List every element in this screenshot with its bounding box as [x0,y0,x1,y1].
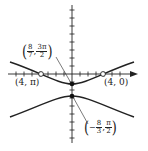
vertex-upper-label: ( 87 , 3π2 ) [22,44,53,59]
x-axis-arrow-icon [130,71,138,77]
intercept-left-point [39,72,44,77]
leader-line-upper [56,57,71,83]
vertex-lower-point [70,94,75,99]
intercept-right-label: (4, 0) [104,78,128,87]
frac-den: 2 [40,52,44,59]
frac-den: 7 [28,52,32,59]
vertex-upper-point [70,82,75,87]
frac-den: 3 [97,128,101,135]
graph-canvas [0,0,148,151]
intercept-left-label: (4, π) [15,78,39,87]
intercept-right-point [101,72,106,77]
frac-den: 2 [106,128,110,135]
sign: − [89,124,96,132]
hyperbola-diagram: ( 87 , 3π2 ) ( − 83 , π2 ) (4, π) (4, 0) [0,0,148,151]
vertex-lower-label: ( − 83 , π2 ) [84,120,117,135]
